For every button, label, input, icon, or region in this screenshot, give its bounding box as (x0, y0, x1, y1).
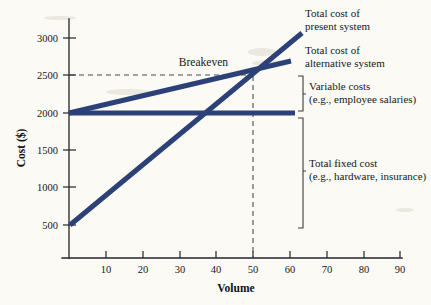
variable-costs-label-line2: (e.g., employee salaries) (309, 93, 417, 106)
x-tick-70: 70 (322, 264, 333, 275)
x-tick-30: 30 (175, 264, 186, 275)
variable-costs-bracket (298, 76, 306, 111)
alternative-system-label-line1: Total cost of (305, 44, 360, 56)
present-system-label-line1: Total cost of (305, 7, 360, 19)
variable-costs-label-line1: Variable costs (309, 80, 370, 92)
fixed-cost-label-line1: Total fixed cost (309, 157, 377, 169)
x-tick-90: 90 (395, 264, 406, 275)
x-tick-60: 60 (285, 264, 296, 275)
y-axis-tick-labels: 3000 2500 2000 1500 1000 500 (37, 33, 58, 231)
breakeven-chart: 3000 2500 2000 1500 1000 500 Cost ($) 10… (0, 0, 431, 305)
y-tick-1500: 1500 (37, 145, 58, 156)
x-axis-title: Volume (217, 282, 254, 294)
x-tick-20: 20 (138, 264, 149, 275)
total-fixed-cost-bracket (298, 118, 306, 228)
x-tick-80: 80 (359, 264, 370, 275)
breakeven-label: Breakeven (179, 56, 228, 68)
present-system-label-line2: present system (305, 20, 371, 32)
fixed-cost-label-line2: (e.g., hardware, insurance) (309, 170, 427, 183)
annotation-total-fixed-cost: Total fixed cost (e.g., hardware, insura… (309, 157, 427, 183)
x-tick-10: 10 (101, 264, 112, 275)
y-tick-3000: 3000 (37, 33, 58, 44)
y-tick-500: 500 (42, 220, 58, 231)
alternative-system-label-line2: alternative system (305, 57, 385, 69)
y-tick-2000: 2000 (37, 108, 58, 119)
y-tick-1000: 1000 (37, 182, 58, 193)
annotation-present-system: Total cost of present system (305, 7, 371, 32)
x-axis-tick-labels: 10 20 30 40 50 60 70 80 90 (101, 264, 406, 275)
y-axis-title: Cost ($) (15, 129, 28, 168)
annotation-variable-costs: Variable costs (e.g., employee salaries) (309, 80, 417, 106)
x-tick-50: 50 (248, 264, 259, 275)
chart-canvas: 3000 2500 2000 1500 1000 500 Cost ($) 10… (0, 0, 431, 305)
annotation-alternative-system: Total cost of alternative system (305, 44, 385, 69)
x-tick-40: 40 (211, 264, 222, 275)
y-tick-2500: 2500 (37, 70, 58, 81)
